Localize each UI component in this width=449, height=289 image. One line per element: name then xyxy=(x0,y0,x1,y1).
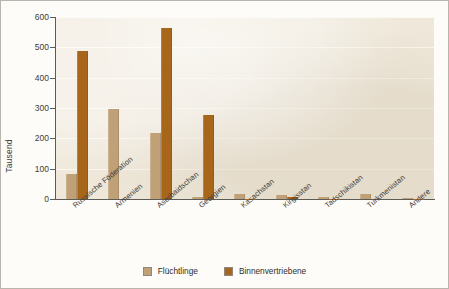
bar-group xyxy=(224,17,266,199)
bar xyxy=(77,51,88,199)
bar xyxy=(150,133,161,199)
y-axis-tick-labels: 0100200300400500600 xyxy=(15,1,49,289)
bar-group xyxy=(308,17,350,199)
legend-item[interactable]: Binnenvertriebene xyxy=(224,266,306,276)
y-axis-tick-label: 200 xyxy=(19,134,49,143)
bar-group xyxy=(350,17,392,199)
legend-label: Flüchtlinge xyxy=(158,266,198,276)
bar xyxy=(203,115,214,199)
y-axis-tick-label: 300 xyxy=(19,104,49,113)
bar xyxy=(108,109,119,199)
chart-figure: 0100200300400500600 Tausend Russische Fö… xyxy=(0,0,449,289)
bar xyxy=(161,28,172,199)
y-axis-tick xyxy=(50,138,55,139)
legend-item[interactable]: Flüchtlinge xyxy=(143,266,198,276)
y-axis-tick xyxy=(50,47,55,48)
y-axis-tick-label: 600 xyxy=(19,13,49,22)
chart-legend: FlüchtlingeBinnenvertriebene xyxy=(1,266,448,276)
y-axis-tick xyxy=(50,17,55,18)
y-axis-tick-label: 400 xyxy=(19,74,49,83)
legend-label: Binnenvertriebene xyxy=(239,266,306,276)
bar xyxy=(66,174,77,199)
y-axis-tick-label: 500 xyxy=(19,43,49,52)
x-axis-tick-labels: Russische FöderationArmenienAserbaidscha… xyxy=(56,200,434,262)
bar-group xyxy=(266,17,308,199)
y-axis-tick-label: 100 xyxy=(19,165,49,174)
y-axis-title: Tausend xyxy=(4,126,14,186)
y-axis-tick-label: 0 xyxy=(19,195,49,204)
y-axis-tick xyxy=(50,78,55,79)
legend-swatch-icon xyxy=(143,267,152,276)
y-axis-tick xyxy=(50,108,55,109)
bar-group xyxy=(140,17,182,199)
bar-group xyxy=(392,17,434,199)
bar-group xyxy=(56,17,98,199)
legend-swatch-icon xyxy=(224,267,233,276)
bar-group xyxy=(182,17,224,199)
y-axis-tick xyxy=(50,199,55,200)
y-axis-tick xyxy=(50,169,55,170)
